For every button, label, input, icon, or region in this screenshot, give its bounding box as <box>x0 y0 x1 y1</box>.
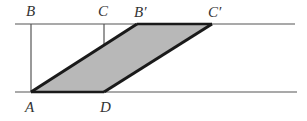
shear-diagram: B C B′ C′ A D <box>0 0 307 121</box>
label-b-prime: B′ <box>134 5 146 20</box>
label-b: B <box>26 4 35 19</box>
label-c: C <box>98 4 108 19</box>
label-d: D <box>100 100 111 115</box>
label-a: A <box>25 100 34 115</box>
label-c-prime: C′ <box>208 5 221 20</box>
diagram-graphics <box>0 0 307 121</box>
